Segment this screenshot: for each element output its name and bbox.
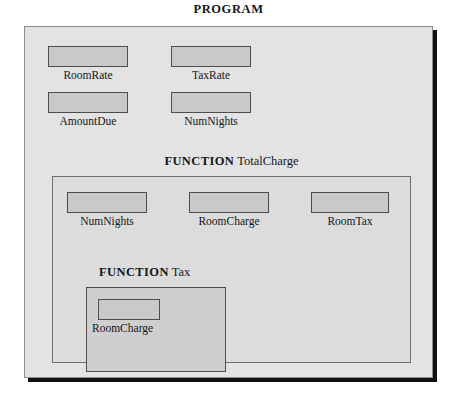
variable-label: TaxRate: [171, 69, 251, 81]
variable-label: RoomCharge: [189, 215, 269, 227]
variable-box: [189, 192, 269, 213]
function-name: Tax: [172, 265, 191, 279]
page-title: PROGRAM: [0, 2, 457, 17]
variable-tax-roomcharge: RoomCharge: [98, 299, 160, 334]
variable-roomrate: RoomRate: [48, 46, 128, 81]
variable-box: [171, 92, 251, 113]
variable-numnights: NumNights: [171, 92, 251, 127]
variable-box: [48, 92, 128, 113]
tax-scope-title: FUNCTION Tax: [99, 265, 190, 280]
variable-label: RoomCharge: [92, 322, 160, 334]
variable-label: AmountDue: [48, 115, 128, 127]
variable-tc-numnights: NumNights: [67, 192, 147, 227]
variable-box: [171, 46, 251, 67]
variable-tc-roomcharge: RoomCharge: [189, 192, 269, 227]
variable-tc-roomtax: RoomTax: [311, 192, 389, 227]
variable-label: RoomRate: [48, 69, 128, 81]
function-name: TotalCharge: [237, 154, 298, 168]
program-scope-box: RoomRate TaxRate AmountDue NumNights FUN…: [24, 26, 433, 378]
variable-box: [98, 299, 160, 320]
variable-taxrate: TaxRate: [171, 46, 251, 81]
function-keyword: FUNCTION: [99, 265, 169, 279]
variable-amountdue: AmountDue: [48, 92, 128, 127]
variable-box: [48, 46, 128, 67]
variable-box: [67, 192, 147, 213]
variable-label: NumNights: [171, 115, 251, 127]
function-keyword: FUNCTION: [164, 154, 234, 168]
tax-scope-box: RoomCharge: [86, 287, 226, 372]
variable-box: [311, 192, 389, 213]
totalcharge-scope-title: FUNCTION TotalCharge: [52, 154, 411, 169]
variable-label: RoomTax: [311, 215, 389, 227]
totalcharge-scope-box: NumNights RoomCharge RoomTax FUNCTION Ta…: [52, 176, 411, 363]
variable-label: NumNights: [67, 215, 147, 227]
